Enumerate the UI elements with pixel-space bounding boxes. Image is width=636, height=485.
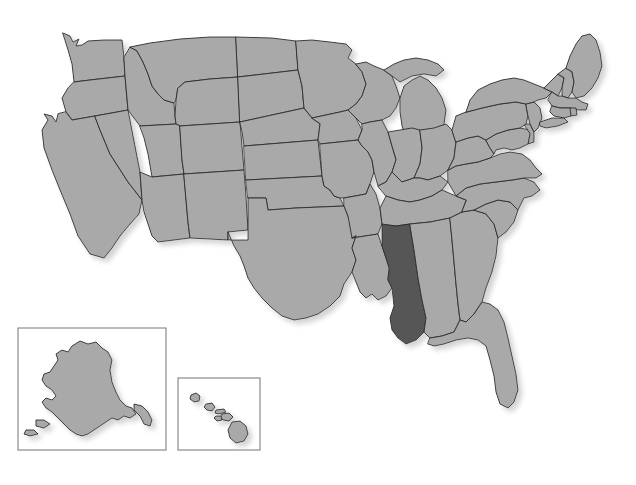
state-AZ[interactable] bbox=[140, 172, 190, 242]
us-map-svg bbox=[0, 0, 636, 485]
state-NY-long-island[interactable] bbox=[540, 118, 568, 128]
contiguous-states-group bbox=[42, 33, 602, 408]
us-map-container bbox=[0, 0, 636, 485]
state-CO[interactable] bbox=[180, 122, 244, 174]
state-AK-aleutian-2[interactable] bbox=[24, 430, 38, 436]
state-NM[interactable] bbox=[184, 170, 248, 240]
state-AK[interactable] bbox=[42, 341, 136, 436]
state-CT[interactable] bbox=[550, 106, 571, 118]
state-AK-panhandle[interactable] bbox=[134, 404, 152, 426]
state-HI-kauai[interactable] bbox=[190, 393, 200, 402]
state-HI-lanai[interactable] bbox=[214, 416, 222, 421]
state-AK-aleutian-1[interactable] bbox=[36, 420, 50, 428]
state-WA[interactable] bbox=[63, 33, 125, 82]
state-WY[interactable] bbox=[175, 77, 240, 126]
state-HI-oahu[interactable] bbox=[204, 403, 215, 411]
hawaii-inset-group bbox=[178, 378, 260, 450]
state-HI-bigisland[interactable] bbox=[228, 421, 248, 443]
state-UT[interactable] bbox=[140, 124, 184, 177]
state-KS[interactable] bbox=[244, 140, 322, 180]
alaska-inset-group bbox=[18, 328, 166, 450]
